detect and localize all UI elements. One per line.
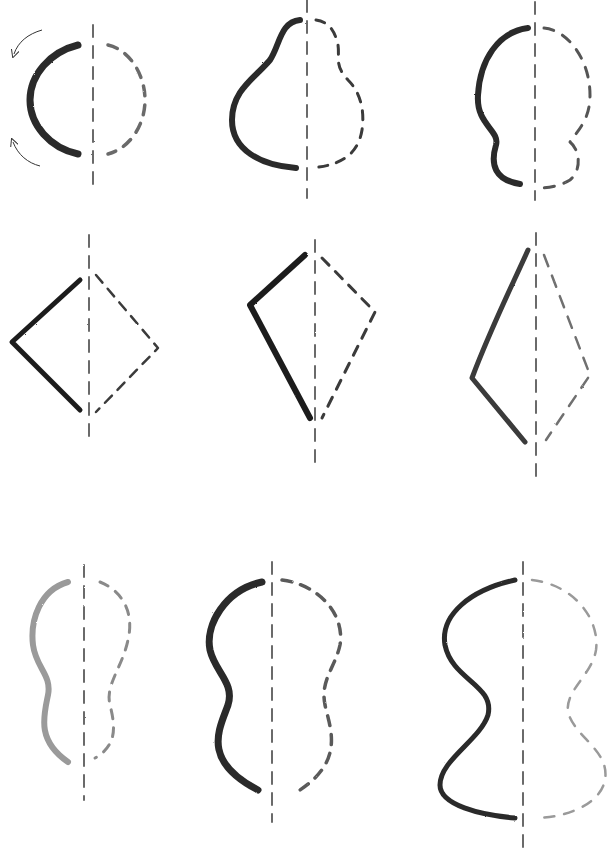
solid-half-outline — [440, 580, 515, 818]
rotate-arrow-icon — [14, 30, 42, 54]
rotate-arrow-icon — [13, 142, 40, 166]
dashed-mirror-outline — [540, 28, 590, 188]
solid-half-outline — [12, 280, 80, 410]
row-s-curve-shapes — [32, 562, 605, 850]
shape-light-vase — [32, 565, 129, 800]
shape-tall-kite — [472, 233, 590, 485]
shape-circle — [13, 25, 145, 185]
dashed-mirror-outline — [544, 255, 590, 440]
dashed-mirror-outline — [95, 582, 130, 758]
row-angular-shapes — [12, 233, 590, 485]
shape-diamond — [12, 235, 158, 445]
shape-kite — [250, 240, 375, 470]
solid-half-outline — [478, 28, 528, 184]
solid-half-outline — [209, 582, 262, 790]
dashed-mirror-outline — [282, 580, 341, 790]
dashed-mirror-outline — [108, 45, 145, 154]
solid-half-outline — [32, 582, 68, 762]
dashed-mirror-outline — [310, 20, 363, 168]
shape-wide-vase — [440, 562, 605, 850]
shape-medium-vase — [209, 562, 340, 822]
shape-pear — [232, 0, 363, 198]
solid-half-outline — [232, 20, 300, 168]
shape-bulb — [478, 2, 590, 200]
solid-half-outline — [30, 45, 78, 154]
dashed-mirror-outline — [532, 580, 605, 818]
dashed-mirror-outline — [96, 275, 158, 412]
dashed-mirror-outline — [322, 258, 375, 418]
solid-half-outline — [250, 255, 310, 418]
row-round-shapes — [13, 0, 590, 200]
shape-grid — [12, 0, 605, 850]
solid-half-outline — [472, 250, 528, 442]
symmetry-drawing-canvas — [0, 0, 615, 860]
